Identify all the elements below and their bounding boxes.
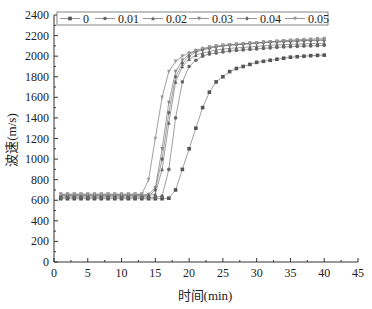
series-0.01 [59, 44, 326, 199]
y-tick-label: 600 [31, 193, 49, 207]
series-0.04 [59, 38, 326, 199]
x-tick-label: 20 [183, 266, 195, 280]
x-tick-label: 15 [149, 266, 161, 280]
y-tick-label: 2000 [25, 49, 49, 63]
line-chart: 0510152025303540450200400600800100012001… [0, 0, 372, 309]
x-tick-label: 30 [251, 266, 263, 280]
svg-text:0: 0 [83, 12, 89, 26]
y-tick-label: 2200 [25, 29, 49, 43]
series-0.02 [59, 41, 326, 197]
plot-series [59, 37, 326, 201]
y-tick-label: 1600 [25, 90, 49, 104]
x-tick-label: 45 [352, 266, 364, 280]
x-tick-label: 40 [318, 266, 330, 280]
y-tick-label: 2400 [25, 8, 49, 22]
svg-text:0.02: 0.02 [166, 12, 187, 26]
series-0 [59, 53, 326, 200]
y-tick-label: 400 [31, 214, 49, 228]
y-tick-label: 1400 [25, 111, 49, 125]
svg-text:0.04: 0.04 [260, 12, 281, 26]
y-tick-label: 200 [31, 234, 49, 248]
x-tick-label: 5 [85, 266, 91, 280]
y-tick-label: 0 [43, 255, 49, 269]
y-tick-label: 1200 [25, 132, 49, 146]
x-tick-label: 35 [284, 266, 296, 280]
y-axis-label: 波速(m/s) [4, 113, 19, 166]
x-tick-label: 25 [217, 266, 229, 280]
x-axis-label: 时间(min) [178, 288, 233, 303]
y-tick-label: 1000 [25, 152, 49, 166]
legend: 00.010.020.030.040.05 [57, 12, 329, 26]
y-tick-label: 1800 [25, 70, 49, 84]
series-0.03 [59, 38, 326, 197]
svg-text:0.03: 0.03 [212, 12, 233, 26]
svg-text:0.01: 0.01 [118, 12, 139, 26]
series-0.05 [59, 37, 326, 197]
x-tick-label: 0 [51, 266, 57, 280]
x-tick-label: 10 [116, 266, 128, 280]
svg-text:0.05: 0.05 [308, 12, 329, 26]
y-tick-label: 800 [31, 173, 49, 187]
